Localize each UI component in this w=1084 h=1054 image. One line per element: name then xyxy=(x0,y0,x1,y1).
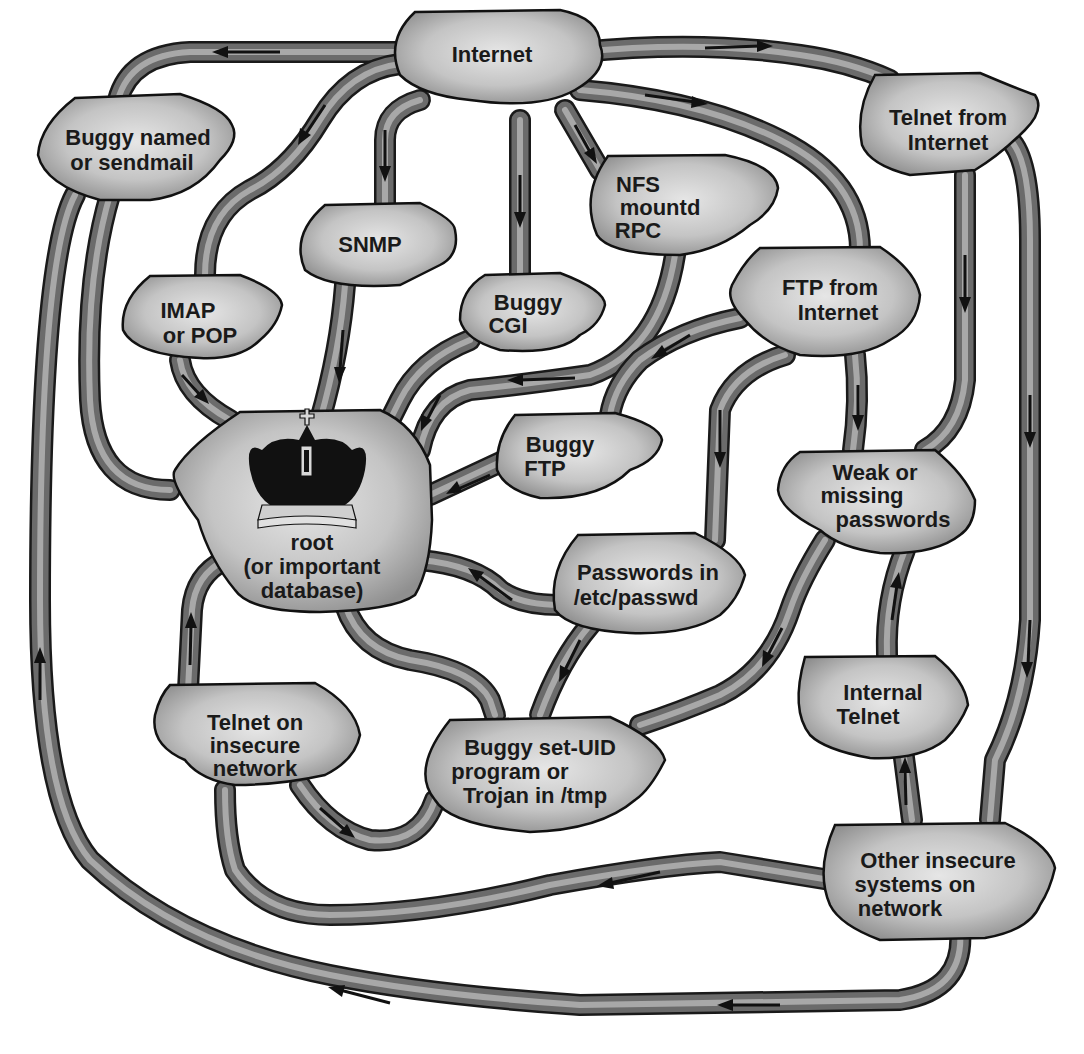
node-label: NFS xyxy=(616,172,660,197)
edge-internet-snmp xyxy=(385,100,420,205)
edge-setuid-root xyxy=(345,605,495,715)
node-label: Buggy xyxy=(526,432,595,457)
node-label: FTP from xyxy=(782,275,878,300)
node-buggy-ftp: Buggy FTP xyxy=(497,413,662,498)
node-label: Buggy named xyxy=(65,125,210,150)
edge-internet-telnet-internet xyxy=(580,47,890,80)
node-label: SNMP xyxy=(338,232,402,257)
node-label: missing xyxy=(820,483,903,508)
node-weak-missing-passwords: Weak or missing passwords xyxy=(778,450,975,553)
node-label: FTP xyxy=(524,456,566,481)
node-label: Telnet from xyxy=(889,105,1007,130)
edge-telnet-insecure-setuid xyxy=(300,785,435,841)
node-telnet-insecure-network: Telnet on insecure network xyxy=(154,683,360,785)
node-label: mountd xyxy=(620,195,701,220)
node-label: passwords xyxy=(836,507,951,532)
node-label: Internal xyxy=(843,680,922,705)
node-label: Internet xyxy=(798,300,879,325)
attack-path-diagram: Internet Buggy named or sendmail Telnet … xyxy=(0,0,1084,1054)
node-label: Internet xyxy=(908,130,989,155)
node-buggy-setuid-trojan: Buggy set-UID program or Trojan in /tmp xyxy=(425,717,665,832)
node-label: systems on xyxy=(854,872,975,897)
node-internet: Internet xyxy=(395,10,602,103)
node-label: network xyxy=(858,896,943,921)
node-label: Buggy set-UID xyxy=(464,735,616,760)
node-label: Weak or xyxy=(832,460,918,485)
node-passwords-etc-passwd: Passwords in /etc/passwd xyxy=(554,533,745,633)
node-label: or POP xyxy=(163,323,238,348)
node-label: database) xyxy=(261,578,364,603)
edge-telnet-internet-other xyxy=(990,140,1030,820)
node-label: IMAP xyxy=(161,298,216,323)
node-nfs-mountd-rpc: NFS mountd RPC xyxy=(591,155,778,255)
node-label: program or xyxy=(451,759,569,784)
node-internal-telnet: Internal Telnet xyxy=(799,656,968,758)
node-buggy-named-sendmail: Buggy named or sendmail xyxy=(38,94,234,200)
node-label: Telnet on xyxy=(207,710,303,735)
node-label: insecure xyxy=(210,733,301,758)
node-label: Passwords in xyxy=(577,560,719,585)
edge-ftp-weak xyxy=(853,355,857,450)
node-label: Buggy xyxy=(494,290,563,315)
node-label: RPC xyxy=(615,218,662,243)
node-label: or sendmail xyxy=(70,150,193,175)
edge-ftp-passwords xyxy=(715,355,785,540)
node-label: network xyxy=(213,756,298,781)
node-label: Telnet xyxy=(836,704,900,729)
node-other-insecure-systems: Other insecure systems on network xyxy=(824,823,1055,940)
edge-telnet-internet-weak xyxy=(925,175,965,450)
edge-imap-root xyxy=(180,360,230,420)
node-imap-pop: IMAP or POP xyxy=(123,275,282,358)
edge-buggy-ftp-root xyxy=(430,460,505,495)
node-label: Other insecure xyxy=(860,848,1015,873)
node-label: CGI xyxy=(488,313,527,338)
node-label: Internet xyxy=(452,42,533,67)
node-label: Trojan in /tmp xyxy=(463,783,607,808)
node-buggy-cgi: Buggy CGI xyxy=(460,273,605,351)
node-label: /etc/passwd xyxy=(574,585,699,610)
node-ftp-from-internet: FTP from Internet xyxy=(730,247,920,356)
node-label: (or important xyxy=(244,554,382,579)
node-label: root xyxy=(291,530,334,555)
node-snmp: SNMP xyxy=(301,203,457,286)
